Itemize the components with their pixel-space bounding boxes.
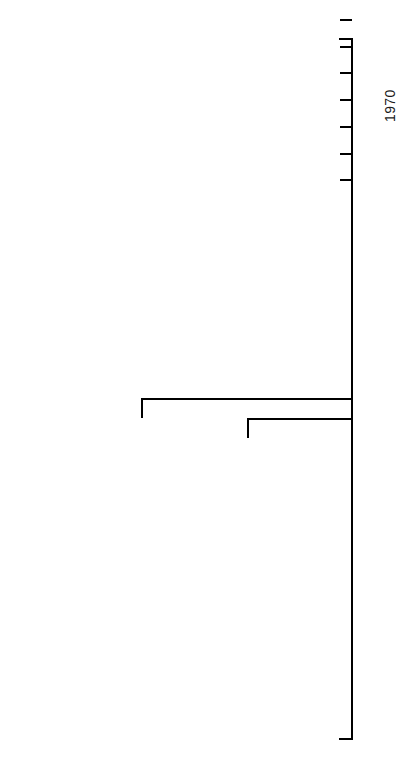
axis-tick-1967 [340, 19, 352, 21]
bracket-rail-dod-requests [247, 418, 351, 420]
bracket-rail-air-force-plans [141, 398, 351, 400]
axis-tick-1972 [340, 153, 352, 155]
axis-cap-bottom [339, 738, 353, 740]
timeline-figure: 19501955196019651970 DOD RequestsInvulne… [0, 0, 404, 778]
bracket-stem-dod-requests [247, 418, 249, 438]
axis-tick-1973 [340, 179, 352, 181]
axis-tick-1971 [340, 126, 352, 128]
axis-spine [351, 38, 353, 740]
axis-tick-1970 [340, 99, 352, 101]
axis-year-label-1970: 1970 [382, 89, 398, 122]
axis-cap-top [339, 38, 353, 40]
bracket-stem-air-force-plans [141, 398, 143, 418]
axis-tick-1968 [340, 46, 352, 48]
axis-tick-1969 [340, 72, 352, 74]
